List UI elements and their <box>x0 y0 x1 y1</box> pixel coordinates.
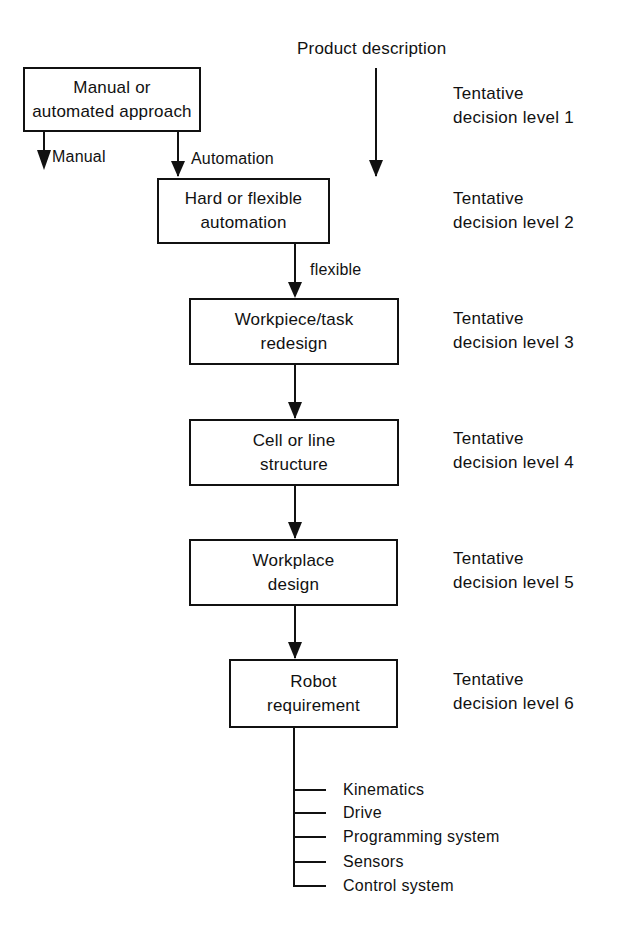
box-robot-requirement: Robot requirement <box>229 659 398 728</box>
box-text-line2: automation <box>200 211 286 235</box>
decision-level-2: Tentative decision level 2 <box>453 187 574 235</box>
box-text-line1: Manual or <box>73 76 150 100</box>
edge-label-automation: Automation <box>191 147 274 171</box>
box-text-line2: design <box>268 573 319 597</box>
edge-label-manual: Manual <box>52 145 106 169</box>
product-description-label: Product description <box>297 37 446 61</box>
decision-level-5: Tentative decision level 5 <box>453 547 574 595</box>
box-text-line2: redesign <box>261 332 328 356</box>
box-text-line2: requirement <box>267 694 360 718</box>
box-text-line1: Workpiece/task <box>235 308 354 332</box>
decision-level-1: Tentative decision level 1 <box>453 82 574 130</box>
box-text-line1: Workplace <box>253 549 335 573</box>
requirement-drive: Drive <box>343 803 382 823</box>
requirement-kinematics: Kinematics <box>343 780 424 800</box>
decision-level-3: Tentative decision level 3 <box>453 307 574 355</box>
requirement-programming-system: Programming system <box>343 827 500 847</box>
box-text-line2: automated approach <box>32 100 192 124</box>
box-hard-or-flexible: Hard or flexible automation <box>157 178 330 244</box>
box-text-line1: Cell or line <box>253 429 336 453</box>
edge-label-flexible: flexible <box>310 258 361 282</box>
box-cell-or-line: Cell or line structure <box>189 419 399 486</box>
requirement-sensors: Sensors <box>343 852 404 872</box>
box-workplace-design: Workplace design <box>189 539 398 606</box>
decision-level-6: Tentative decision level 6 <box>453 668 574 716</box>
requirement-control-system: Control system <box>343 876 454 896</box>
box-text-line1: Hard or flexible <box>185 187 303 211</box>
box-text-line1: Robot <box>290 670 336 694</box>
box-manual-or-automated: Manual or automated approach <box>23 67 201 132</box>
box-workpiece-redesign: Workpiece/task redesign <box>189 298 399 365</box>
box-text-line2: structure <box>260 453 328 477</box>
decision-level-4: Tentative decision level 4 <box>453 427 574 475</box>
